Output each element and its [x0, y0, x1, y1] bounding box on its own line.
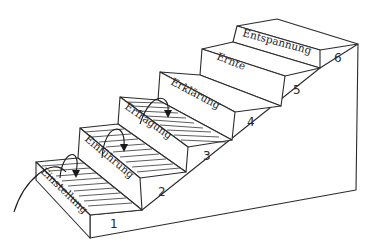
step-6-number: 6 [334, 51, 342, 65]
step-4-number: 4 [247, 115, 255, 129]
staircase-diagram: Einstellung Einführung Erfragung Erkläru… [0, 0, 370, 251]
step-2-number: 2 [158, 185, 166, 199]
step-3-number: 3 [203, 149, 211, 163]
step-1-number: 1 [110, 217, 118, 231]
step-5-number: 5 [293, 83, 301, 97]
